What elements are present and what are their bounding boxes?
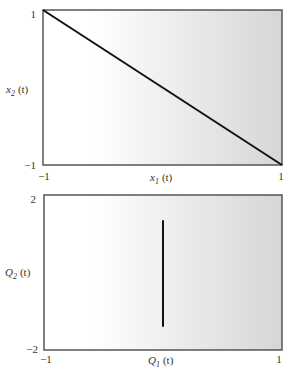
figure: 1 −1 −1 1 x2(t) x1(t) 2 −2 −1 1 Q2(t) Q1… bbox=[0, 0, 296, 370]
chart-x1-x2: 1 −1 −1 1 x2(t) x1(t) bbox=[5, 8, 284, 186]
x-tick-left: −1 bbox=[38, 170, 50, 182]
y-axis-label: x2(t) bbox=[5, 83, 29, 98]
y-tick-top: 1 bbox=[31, 8, 37, 20]
y-axis-label: Q2(t) bbox=[5, 266, 31, 281]
x-axis-label: x1(t) bbox=[149, 171, 173, 186]
y-tick-bottom: −1 bbox=[24, 159, 36, 171]
x-axis-label: Q1(t) bbox=[148, 354, 174, 369]
y-tick-top: 2 bbox=[31, 193, 37, 205]
x-tick-left: −1 bbox=[40, 353, 52, 365]
x-tick-right: 1 bbox=[276, 353, 282, 365]
x-tick-right: 1 bbox=[278, 170, 284, 182]
y-tick-bottom: −2 bbox=[26, 343, 38, 355]
chart-q1-q2: 2 −2 −1 1 Q2(t) Q1(t) bbox=[5, 193, 282, 369]
